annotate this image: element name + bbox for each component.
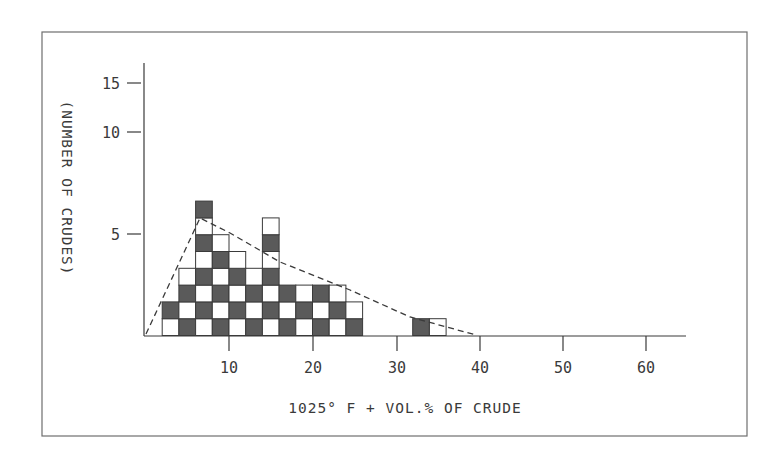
histogram-cell xyxy=(246,302,263,319)
histogram-cell xyxy=(413,319,430,336)
histogram-cell xyxy=(196,285,213,302)
histogram-cell xyxy=(262,302,279,319)
histogram-cell xyxy=(329,302,346,319)
histogram-cell xyxy=(196,302,213,319)
x-tick-label-50: 50 xyxy=(554,359,572,377)
histogram-cell xyxy=(262,235,279,252)
histogram-cell xyxy=(279,302,296,319)
histogram-cell xyxy=(346,319,363,336)
histogram-cell xyxy=(296,319,313,336)
histogram-cell xyxy=(179,268,196,285)
histogram-cell xyxy=(196,252,213,269)
histogram-cell xyxy=(296,285,313,302)
histogram-cell xyxy=(229,285,246,302)
histogram-cell xyxy=(212,285,229,302)
x-tick-label-10: 10 xyxy=(220,359,238,377)
y-tick-label-15: 15 xyxy=(102,75,120,93)
histogram-cell xyxy=(212,252,229,269)
y-tick-label-5: 5 xyxy=(111,226,120,244)
histogram-bars xyxy=(162,201,446,335)
histogram-cell xyxy=(179,302,196,319)
histogram-cell xyxy=(313,302,330,319)
x-tick-label-60: 60 xyxy=(637,359,655,377)
histogram-chart: 15 10 5 (NUMBER OF CRUDES) 10 20 30 40 5… xyxy=(0,0,784,465)
histogram-cell xyxy=(212,235,229,252)
histogram-cell xyxy=(212,302,229,319)
histogram-cell xyxy=(196,319,213,336)
histogram-cell xyxy=(229,319,246,336)
histogram-cell xyxy=(162,319,179,336)
histogram-cell xyxy=(229,268,246,285)
histogram-cell xyxy=(262,319,279,336)
histogram-cell xyxy=(246,268,263,285)
x-tick-label-30: 30 xyxy=(388,359,406,377)
x-ticks: 10 20 30 40 50 60 xyxy=(220,336,655,377)
histogram-cell xyxy=(162,302,179,319)
histogram-cell xyxy=(313,319,330,336)
histogram-cell xyxy=(279,319,296,336)
histogram-cell xyxy=(262,268,279,285)
histogram-cell xyxy=(212,319,229,336)
histogram-cell xyxy=(262,285,279,302)
histogram-cell xyxy=(246,285,263,302)
y-axis-title: (NUMBER OF CRUDES) xyxy=(59,100,75,275)
histogram-cell xyxy=(262,218,279,235)
histogram-cell xyxy=(329,285,346,302)
histogram-cell xyxy=(229,252,246,269)
histogram-cell xyxy=(279,285,296,302)
histogram-cell xyxy=(313,285,330,302)
histogram-cell xyxy=(429,319,446,336)
histogram-cell xyxy=(329,319,346,336)
histogram-cell xyxy=(179,285,196,302)
histogram-cell xyxy=(179,319,196,336)
y-ticks: 15 10 5 xyxy=(102,75,141,244)
x-tick-label-40: 40 xyxy=(471,359,489,377)
histogram-cell xyxy=(196,235,213,252)
x-axis-title: 1025° F + VOL.% OF CRUDE xyxy=(288,400,522,416)
histogram-cell xyxy=(196,268,213,285)
x-tick-label-20: 20 xyxy=(304,359,322,377)
histogram-cell xyxy=(196,201,213,218)
histogram-cell xyxy=(296,302,313,319)
histogram-cell xyxy=(246,319,263,336)
y-tick-label-10: 10 xyxy=(102,124,120,142)
histogram-cell xyxy=(229,302,246,319)
histogram-cell xyxy=(212,268,229,285)
histogram-cell xyxy=(346,302,363,319)
